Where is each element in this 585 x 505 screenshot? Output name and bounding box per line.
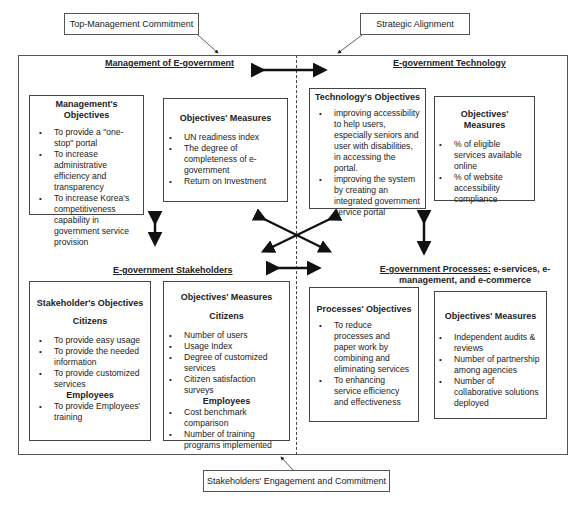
box-heading: Management's Objectives <box>35 99 138 121</box>
list-item: To provide a "one-stop" portal <box>54 127 138 149</box>
callout-strategic-alignment: Strategic Alignment <box>360 13 470 35</box>
callout-leader-bottom <box>281 457 293 470</box>
list-item: To provide Employees' training <box>54 401 145 423</box>
list-item: Citizen satisfaction surveys <box>184 374 284 396</box>
callout-label: Top-Management Commitment <box>70 19 194 29</box>
quadrant-divider <box>296 55 297 455</box>
box-heading: Processes' Objectives <box>315 304 413 315</box>
stakeholders-measures-box: Objectives' Measures Citizens Number of … <box>163 281 290 441</box>
technology-measures-box: Objectives' Measures % of eligible servi… <box>434 96 535 201</box>
objectives-list: improving accessibility to help users, e… <box>315 108 420 218</box>
list-item: Independent audits & reviews <box>454 332 541 354</box>
employees-measures-list: Cost benchmark comparison Number of trai… <box>169 407 284 451</box>
box-heading: Objectives' Measures <box>440 311 541 322</box>
citizens-measures-list: Number of users Usage Index Degree of cu… <box>169 330 284 396</box>
list-item: Cost benchmark comparison <box>184 407 284 429</box>
list-item: improving accessibility to help users, e… <box>334 108 420 174</box>
list-item: UN readiness index <box>184 132 282 143</box>
list-item: The degree of completeness of e-governme… <box>184 143 282 176</box>
list-item: Number of users <box>184 330 284 341</box>
section-title-processes: E-government Processes: e-services, e- m… <box>360 264 570 286</box>
callout-label: Stakeholders' Engagement and Commitment <box>207 476 386 486</box>
section-title-stakeholders: E-government Stakeholders <box>113 265 233 275</box>
list-item: Return on Investment <box>184 176 282 187</box>
list-item: To enhancing service efficiency and effe… <box>334 375 413 408</box>
employees-objectives-list: To provide Employees' training <box>35 401 145 423</box>
list-item: To reduce processes and paper work by co… <box>334 320 413 375</box>
callout-top-management-commitment: Top-Management Commitment <box>64 13 199 35</box>
list-item: To increase Korea's competitiveness capa… <box>54 193 138 248</box>
stakeholders-objectives-box: Stakeholder's Objectives Citizens To pro… <box>29 281 151 441</box>
group-label-employees: Employees <box>35 390 145 401</box>
measures-list: % of eligible services available online … <box>440 139 529 205</box>
citizens-objectives-list: To provide easy usage To provide the nee… <box>35 335 145 390</box>
processes-title-main: E-government Processes: <box>380 264 491 274</box>
box-heading: Objectives' Measures <box>169 292 284 303</box>
box-heading: Technology's Objectives <box>315 92 420 103</box>
callout-stakeholders-engagement: Stakeholders' Engagement and Commitment <box>203 470 390 492</box>
list-item: Usage Index <box>184 341 284 352</box>
list-item: To provide the needed information <box>54 346 145 368</box>
group-label-citizens: Citizens <box>35 316 145 327</box>
callout-leader-top-right <box>338 35 362 53</box>
section-title-management: Management of E-government <box>105 58 234 68</box>
section-title-technology: E-government Technology <box>393 58 506 68</box>
list-item: improving the system by creating an inte… <box>334 174 420 218</box>
processes-title-rest: e-services, e- <box>491 264 551 274</box>
measures-list: Independent audits & reviews Number of p… <box>440 332 541 409</box>
measures-list: UN readiness index The degree of complet… <box>169 132 282 187</box>
processes-objectives-box: Processes' Objectives To reduce processe… <box>309 287 419 422</box>
list-item: To provide customized services <box>54 368 145 390</box>
list-item: To provide easy usage <box>54 335 145 346</box>
management-measures-box: Objectives' Measures UN readiness index … <box>163 98 288 202</box>
management-objectives-box: Management's Objectives To provide a "on… <box>29 95 144 215</box>
list-item: Degree of customized services <box>184 352 284 374</box>
list-item: Number of partnership among agencies <box>454 354 541 376</box>
objectives-list: To reduce processes and paper work by co… <box>315 320 413 408</box>
list-item: Number of training programs implemented <box>184 429 284 451</box>
processes-measures-box: Objectives' Measures Independent audits … <box>434 291 547 419</box>
group-label-employees: Employees <box>169 396 284 407</box>
processes-title-line2: management, and e-commerce <box>399 275 531 285</box>
list-item: % of website accessibility compliance <box>454 172 529 205</box>
list-item: To increase administrative efficiency an… <box>54 149 138 193</box>
list-item: Number of collaborative solutions deploy… <box>454 376 541 409</box>
callout-label: Strategic Alignment <box>376 19 454 29</box>
box-heading: Stakeholder's Objectives <box>35 298 145 309</box>
objectives-list: To provide a "one-stop" portal To increa… <box>35 127 138 248</box>
box-heading: Objectives' Measures <box>440 109 529 131</box>
group-label-citizens: Citizens <box>169 311 284 322</box>
callout-leader-top-left <box>198 35 218 53</box>
list-item: % of eligible services available online <box>454 139 529 172</box>
technology-objectives-box: Technology's Objectives improving access… <box>309 88 426 209</box>
box-heading: Objectives' Measures <box>169 113 282 124</box>
